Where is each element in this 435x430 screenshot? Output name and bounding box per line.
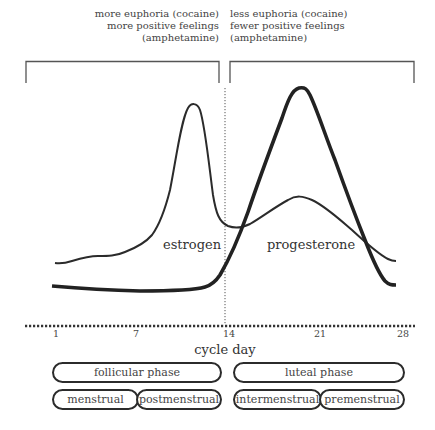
estrogen-label: estrogen xyxy=(163,237,221,252)
phase-follicular: follicular phase xyxy=(52,362,222,383)
phase-luteal: luteal phase xyxy=(233,362,405,383)
progesterone-curve xyxy=(52,88,396,291)
phase-intermenstrual: intermenstrual xyxy=(233,389,322,410)
x-axis-label: cycle day xyxy=(194,342,255,357)
phase-premenstrual: premenstrual xyxy=(319,389,405,410)
left-bracket xyxy=(26,62,219,84)
x-tick-14: 14 xyxy=(223,328,235,339)
right-bracket xyxy=(230,62,414,84)
x-tick-21: 21 xyxy=(314,328,326,339)
phase-postmenstrual: postmenstrual xyxy=(136,389,222,410)
x-tick-7: 7 xyxy=(133,328,139,339)
x-tick-28: 28 xyxy=(397,328,409,339)
x-tick-1: 1 xyxy=(53,328,59,339)
progesterone-label: progesterone xyxy=(267,237,355,252)
phase-menstrual: menstrual xyxy=(52,389,139,410)
